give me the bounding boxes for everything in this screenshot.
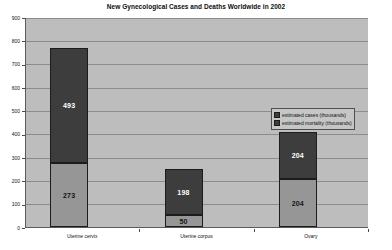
y-axis-tick-mark [22, 18, 25, 19]
y-axis-tick-label: 900 [0, 16, 20, 21]
bar-value-label: 493 [63, 102, 75, 109]
y-axis-tick-label: 200 [0, 179, 20, 184]
x-axis-category-label: Uterine corpus [139, 233, 253, 239]
chart-title: New Gynecological Cases and Deaths World… [0, 3, 392, 11]
bar-value-label: 204 [292, 200, 304, 207]
y-axis-tick-mark [22, 228, 25, 229]
gridline [26, 41, 368, 42]
bar-stack[interactable]: 204204 [279, 132, 317, 227]
y-axis-tick-label: 0 [0, 226, 20, 231]
y-axis-tick-mark [22, 111, 25, 112]
legend: estimated cases (thousands)estimated mor… [271, 108, 355, 130]
chart-container: New Gynecological Cases and Deaths World… [0, 0, 392, 250]
x-axis-category-label: Ovary [254, 233, 368, 239]
legend-item[interactable]: estimated cases (thousands) [273, 111, 352, 119]
bar-segment-cases[interactable]: 204 [279, 132, 317, 180]
y-axis-tick-mark [22, 88, 25, 89]
y-axis-tick-mark [22, 181, 25, 182]
x-axis-category-label: Uterine cervix [25, 233, 139, 239]
x-axis-tick-mark [254, 229, 255, 232]
x-axis-tick-mark [139, 229, 140, 232]
y-axis-tick-label: 300 [0, 156, 20, 161]
bar-segment-mortality[interactable]: 204 [279, 179, 317, 227]
y-axis-tick-mark [22, 41, 25, 42]
bar-value-label: 198 [177, 189, 189, 196]
y-axis-tick-label: 500 [0, 109, 20, 114]
legend-item-label: estimated mortality (thousands) [282, 120, 352, 126]
y-axis-tick-mark [22, 158, 25, 159]
y-axis-tick-mark [22, 135, 25, 136]
y-axis-tick-label: 600 [0, 86, 20, 91]
y-axis-tick-mark [22, 65, 25, 66]
legend-item-label: estimated cases (thousands) [282, 112, 346, 118]
bar-value-label: 273 [63, 192, 75, 199]
bar-stack[interactable]: 50198 [165, 169, 203, 227]
x-axis-tick-mark [368, 229, 369, 232]
bar-segment-cases[interactable]: 198 [165, 169, 203, 215]
bar-value-label: 50 [179, 218, 187, 225]
bar-segment-mortality[interactable]: 50 [165, 215, 203, 227]
bar-value-label: 204 [292, 152, 304, 159]
y-axis-tick-mark [22, 205, 25, 206]
bar-segment-mortality[interactable]: 273 [50, 163, 88, 227]
y-axis-tick-label: 400 [0, 132, 20, 137]
legend-item[interactable]: estimated mortality (thousands) [273, 119, 352, 127]
y-axis-tick-label: 700 [0, 62, 20, 67]
legend-color-swatch [274, 112, 280, 118]
y-axis-tick-label: 100 [0, 202, 20, 207]
y-axis-tick-label: 800 [0, 39, 20, 44]
bar-segment-cases[interactable]: 493 [50, 48, 88, 163]
bar-stack[interactable]: 273493 [50, 48, 88, 227]
legend-color-swatch [274, 120, 280, 126]
gridline [26, 18, 368, 19]
